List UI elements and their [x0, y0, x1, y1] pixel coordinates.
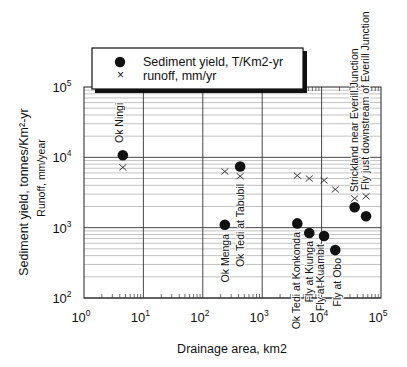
- site-label: Ok Tedi at Konkonda: [290, 232, 302, 329]
- sediment-point: [349, 202, 360, 213]
- sediment-point: [235, 161, 246, 172]
- y-tick-label: 105: [52, 78, 71, 95]
- x-tick-label: 100: [71, 308, 90, 325]
- sediment-point: [319, 231, 330, 242]
- sediment-point: [361, 211, 372, 222]
- x-tick-label: 105: [368, 308, 387, 325]
- x-axis-label: Drainage area, km2: [177, 342, 287, 356]
- legend-circle-icon: [115, 57, 125, 67]
- site-label: Fly at Kuambit: [314, 244, 326, 311]
- runoff-point: [351, 195, 358, 201]
- sediment-yield-chart: 100101102103104105 102103104105 Ok Ningi…: [0, 0, 407, 367]
- sediment-point: [118, 150, 129, 161]
- y-tick-label: 102: [52, 289, 71, 306]
- legend-x-icon: ×: [117, 68, 124, 82]
- runoff-point: [332, 186, 339, 192]
- x-tick-label: 103: [250, 308, 269, 325]
- legend-label-sediment: Sediment yield, T/Km2-yr: [143, 55, 283, 69]
- legend-label-runoff: runoff, mm/yr: [143, 69, 216, 83]
- sediment-point: [330, 245, 341, 256]
- y-axis-label: Sediment yield, tonnes/Km²-yr: [17, 108, 31, 275]
- x-tick-label: 102: [190, 308, 209, 325]
- legend: × Sediment yield, T/Km2-yr runoff, mm/yr: [92, 48, 307, 93]
- x-tick-label: 101: [131, 308, 150, 325]
- y-axis-label-runoff: Runoff, mm/year: [35, 139, 47, 217]
- site-label: Ok Tedi at Tabubil: [234, 184, 246, 267]
- site-label: Fly at Obo: [331, 258, 343, 307]
- sediment-point: [304, 228, 315, 239]
- sediment-point: [292, 218, 303, 229]
- runoff-point: [221, 168, 228, 174]
- runoff-point: [119, 164, 126, 170]
- runoff-point: [294, 173, 301, 179]
- site-label: Ok Menga: [219, 234, 231, 283]
- y-tick-label: 103: [52, 219, 71, 236]
- y-tick-label: 104: [52, 148, 71, 165]
- y-axis-ticks: 102103104105: [52, 78, 71, 306]
- sediment-point: [220, 219, 231, 230]
- site-label: Fly just downstream of Everill Junction: [359, 11, 371, 190]
- site-label: Ok Ningi: [113, 103, 125, 143]
